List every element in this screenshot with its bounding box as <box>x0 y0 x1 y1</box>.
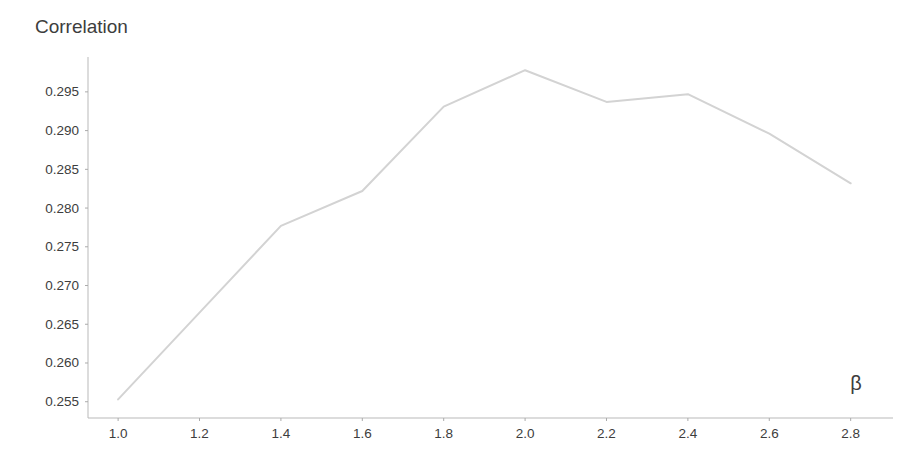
x-tick-label: 2.6 <box>760 426 779 441</box>
y-tick-label: 0.290 <box>45 123 79 138</box>
x-tick-label: 1.8 <box>434 426 453 441</box>
y-tick-label: 0.295 <box>45 84 79 99</box>
x-tick-label: 1.2 <box>190 426 209 441</box>
line-chart-plot-area: 1.01.21.41.61.82.02.22.42.62.80.2550.260… <box>0 0 915 473</box>
x-axis-label-beta: β <box>846 372 866 395</box>
x-tick-label: 1.0 <box>109 426 128 441</box>
x-tick-label: 2.0 <box>516 426 535 441</box>
x-tick-label: 2.2 <box>597 426 616 441</box>
y-tick-label: 0.270 <box>45 278 79 293</box>
x-tick-label: 1.6 <box>353 426 372 441</box>
x-tick-label: 2.8 <box>841 426 860 441</box>
y-tick-label: 0.280 <box>45 201 79 216</box>
y-tick-label: 0.275 <box>45 239 79 254</box>
correlation-line-chart-figure: Correlation 1.01.21.41.61.82.02.22.42.62… <box>0 0 915 473</box>
data-line-correlation <box>118 70 851 399</box>
y-tick-label: 0.285 <box>45 162 79 177</box>
y-tick-label: 0.260 <box>45 355 79 370</box>
y-tick-label: 0.265 <box>45 317 79 332</box>
x-tick-label: 2.4 <box>678 426 697 441</box>
x-tick-label: 1.4 <box>272 426 291 441</box>
y-tick-label: 0.255 <box>45 394 79 409</box>
